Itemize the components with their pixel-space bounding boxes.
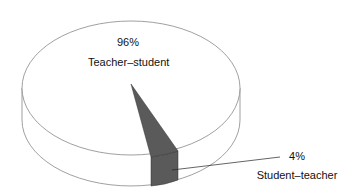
- label-teacher-student: 96% Teacher–student: [88, 34, 168, 70]
- pct-student-teacher: 4%: [252, 148, 342, 164]
- name-student-teacher: Student–teacher: [252, 167, 342, 183]
- name-teacher-student: Teacher–student: [88, 54, 168, 70]
- label-student-teacher: 4% Student–teacher: [252, 148, 342, 183]
- pct-teacher-student: 96%: [88, 34, 168, 50]
